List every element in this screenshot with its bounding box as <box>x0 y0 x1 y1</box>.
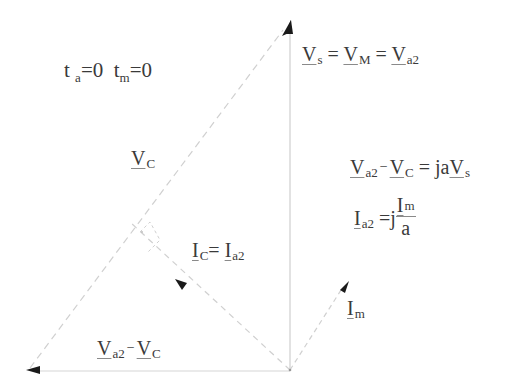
equals-sign: = <box>370 43 391 65</box>
origin-point <box>289 369 292 372</box>
ic-equation-label: IC= Ia2 <box>192 240 245 260</box>
va2-symbol: V <box>350 156 364 178</box>
vc-symbol: V <box>131 147 145 169</box>
ia2-subscript: a2 <box>232 248 244 263</box>
minus-sign: − <box>380 159 388 174</box>
phasor-diagram-canvas <box>0 0 511 387</box>
va2-subscript: a2 <box>365 165 377 180</box>
im-subscript: m <box>404 198 414 213</box>
vs-equation-label: Vs = VM = Va2 <box>302 44 419 64</box>
minus-sign: − <box>127 340 135 355</box>
va2-minus-vc-equation-label: Va2−VC = jaVs <box>350 157 470 177</box>
va2-symbol: V <box>391 43 405 65</box>
vc-subscript: C <box>152 346 161 361</box>
va2-subscript: a2 <box>112 346 124 361</box>
ic-arrowhead-icon <box>175 279 187 290</box>
im-over-a-fraction: Ima <box>396 195 416 238</box>
fraction-numerator: Im <box>396 195 416 217</box>
ta-symbol: t <box>64 58 70 82</box>
vs-symbol: V <box>302 43 316 65</box>
ia2-symbol: I <box>225 239 232 261</box>
fraction-denominator: a <box>396 217 416 238</box>
vm-symbol: V <box>343 43 357 65</box>
va2-minus-vc-arrowhead-icon <box>26 366 40 374</box>
va2-minus-vc-label: Va2−VC <box>97 338 161 358</box>
vs-subscript: s <box>465 165 470 180</box>
ia2-subscript: a2 <box>362 216 374 231</box>
initial-condition-label: t a=0 tm=0 <box>64 60 152 81</box>
im-subscript: m <box>355 306 365 321</box>
vs-symbol: V <box>449 156 463 178</box>
im-arrowhead-icon <box>340 281 349 293</box>
ta-value: =0 <box>81 58 103 82</box>
tm-value: =0 <box>130 58 152 82</box>
vc-label: VC <box>131 148 155 168</box>
equals-ja: = ja <box>414 156 450 178</box>
im-symbol: I <box>397 194 404 216</box>
equals-sign: = <box>208 239 224 261</box>
im-label: Im <box>347 298 365 318</box>
ta-subscript: a <box>75 70 81 85</box>
ia2-equation-label: Ia2 =jIma <box>354 199 416 242</box>
im-symbol: I <box>347 297 354 319</box>
equals-j: =j <box>374 207 396 229</box>
vm-subscript: M <box>359 52 371 67</box>
tm-symbol: t <box>114 58 120 82</box>
va2-symbol: V <box>97 337 111 359</box>
vc-subscript: C <box>146 156 155 171</box>
vc-symbol: V <box>137 337 151 359</box>
equals-sign: = <box>323 43 344 65</box>
ia2-symbol: I <box>354 207 361 229</box>
vs-arrowhead-icon-b <box>285 20 293 34</box>
va2-subscript: a2 <box>407 52 419 67</box>
ic-symbol: I <box>192 239 199 261</box>
vc-subscript: C <box>405 165 414 180</box>
right-angle-dot <box>141 231 143 233</box>
tm-subscript: m <box>120 70 130 85</box>
vc-symbol: V <box>390 156 404 178</box>
vs-subscript: s <box>317 52 322 67</box>
im-phasor-line <box>290 287 343 370</box>
ic-subscript: C <box>200 248 209 263</box>
